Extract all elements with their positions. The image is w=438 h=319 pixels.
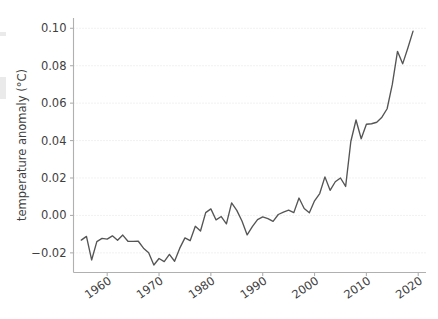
temperature-anomaly-line-chart: 0.100.080.060.040.020.00−0.02 1960197019… <box>0 0 438 319</box>
x-tick-label-2: 1980 <box>186 273 218 301</box>
x-tick-label-3: 1990 <box>237 273 269 301</box>
x-tick-label-5: 2010 <box>341 273 373 301</box>
data-line-0 <box>81 31 413 265</box>
x-tick-label-1: 1970 <box>134 273 166 301</box>
x-tick-label-6: 2020 <box>393 273 425 301</box>
data-series-group <box>81 31 413 265</box>
x-tick-label-0: 1960 <box>82 273 114 301</box>
y-tick-label-6: −0.02 <box>31 246 66 260</box>
y-tick-group: 0.100.080.060.040.020.00−0.02 <box>31 21 73 260</box>
y-tick-label-3: 0.04 <box>41 134 67 148</box>
x-tick-label-4: 2000 <box>289 273 321 301</box>
x-tick-group: 1960197019801990200020102020 <box>82 273 425 302</box>
axis-spines-group <box>74 18 427 273</box>
y-tick-label-0: 0.10 <box>41 21 67 35</box>
y-axis-label: temperature anomaly (°C) <box>15 69 29 221</box>
gridlines-group <box>74 28 427 253</box>
figure-canvas: 0.100.080.060.040.020.00−0.02 1960197019… <box>0 0 438 319</box>
y-tick-label-1: 0.08 <box>41 59 67 73</box>
y-tick-label-5: 0.00 <box>41 208 67 222</box>
y-tick-label-4: 0.02 <box>41 171 67 185</box>
y-tick-label-2: 0.06 <box>41 96 67 110</box>
